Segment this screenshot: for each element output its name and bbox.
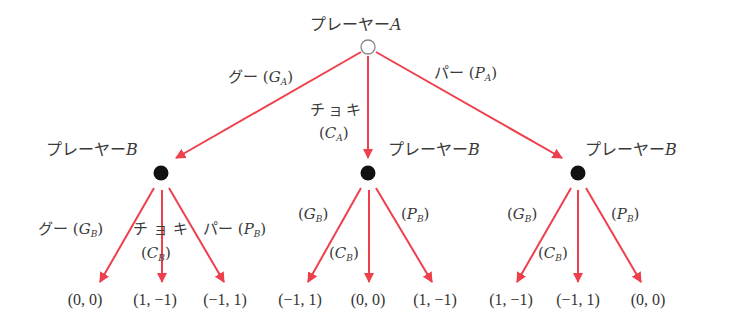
move-label-b3-gu: (GB) (507, 207, 537, 224)
payoff-leaf-7: (1, −1) (489, 291, 533, 309)
move-symbol: G (269, 68, 281, 86)
edge-b2-gu (308, 188, 361, 282)
move-label-b2-choki: (CB) (329, 246, 359, 263)
move-label-b3-choki: (CB) (538, 246, 568, 263)
move-label-a-gu: グー (GA) (228, 70, 293, 87)
payoff-leaf-4: (−1, 1) (278, 291, 322, 309)
paren-close: ) (343, 124, 349, 142)
move-label-b2-gu: (GB) (298, 207, 328, 224)
game-tree-diagram: プレーヤーA グー (GA) チョキ (CA) パー (PA) プレーヤーB プ… (0, 0, 729, 328)
player-b-node-3 (571, 166, 586, 181)
tree-edges (0, 0, 729, 328)
paren-close: ) (562, 244, 568, 262)
paren-close: ) (634, 205, 640, 223)
move-symbol: P (244, 220, 254, 238)
move-label-b2-pa: (PB) (401, 207, 429, 224)
move-label-a-pa: パー (PA) (434, 66, 497, 83)
move-jp: パー (434, 64, 464, 82)
player-b-node-1 (154, 166, 169, 181)
move-symbol: C (544, 244, 555, 262)
payoff-leaf-9: (0, 0) (631, 291, 666, 309)
move-jp: グー (228, 68, 258, 86)
move-symbol: G (79, 220, 91, 238)
move-label-b1-gu: グー (GB) (38, 222, 103, 239)
move-sub: B (158, 253, 165, 263)
paren-close: ) (531, 205, 537, 223)
move-symbol: G (304, 205, 316, 223)
move-symbol: G (513, 205, 525, 223)
edge-b3-gu (517, 188, 571, 282)
player-b-label-2: プレーヤーB (388, 142, 480, 158)
paren-close: ) (322, 205, 328, 223)
payoff-leaf-3: (−1, 1) (203, 291, 247, 309)
move-jp: パー (203, 220, 233, 238)
player-label-text: プレーヤー (388, 140, 468, 159)
player-letter: A (390, 15, 402, 34)
move-symbol: P (617, 205, 627, 223)
move-symbol: P (407, 205, 417, 223)
move-jp: グー (38, 220, 68, 238)
move-label-b1-pa: パー (PB) (203, 222, 266, 239)
payoff-leaf-8: (−1, 1) (556, 291, 600, 309)
player-b-node-2 (361, 166, 376, 181)
root-node-open-circle (361, 40, 375, 54)
paren-close: ) (353, 244, 359, 262)
move-label-a-choki-sym: (CA) (319, 126, 349, 143)
player-label-text: プレーヤー (46, 140, 126, 159)
move-jp: チョキ (310, 101, 364, 119)
move-label-b1-choki-sym: (CB) (141, 246, 171, 263)
paren-close: ) (491, 64, 497, 82)
paren-close: ) (260, 220, 266, 238)
paren-close: ) (97, 220, 103, 238)
move-symbol: P (475, 64, 485, 82)
move-symbol: C (325, 124, 336, 142)
move-symbol: C (147, 244, 158, 262)
paren-close: ) (287, 68, 293, 86)
paren-close: ) (424, 205, 430, 223)
player-label-text: プレーヤー (585, 140, 665, 159)
payoff-leaf-6: (1, −1) (413, 291, 457, 309)
payoff-leaf-5: (0, 0) (351, 291, 386, 309)
move-sub: B (627, 214, 634, 224)
move-jp: チョキ (133, 220, 193, 238)
move-label-a-choki-jp: チョキ (310, 103, 364, 118)
payoff-leaf-1: (0, 0) (68, 291, 103, 309)
move-sub: B (346, 253, 353, 263)
payoff-leaf-2: (1, −1) (133, 291, 177, 309)
root-player-label: プレーヤーA (310, 17, 402, 33)
move-sub: B (417, 214, 424, 224)
move-sub: B (555, 253, 562, 263)
edge-b3-pa (586, 188, 641, 282)
player-label-text: プレーヤー (310, 15, 390, 34)
move-label-b3-pa: (PB) (611, 207, 639, 224)
move-symbol: C (335, 244, 346, 262)
player-letter: B (665, 140, 677, 159)
player-letter: B (468, 140, 480, 159)
player-letter: B (126, 140, 138, 159)
move-label-b1-choki-jp: チョキ (133, 222, 193, 237)
player-b-label-1: プレーヤーB (46, 142, 138, 158)
player-b-label-3: プレーヤーB (585, 142, 677, 158)
paren-close: ) (165, 244, 171, 262)
edge-b2-pa (376, 188, 432, 282)
